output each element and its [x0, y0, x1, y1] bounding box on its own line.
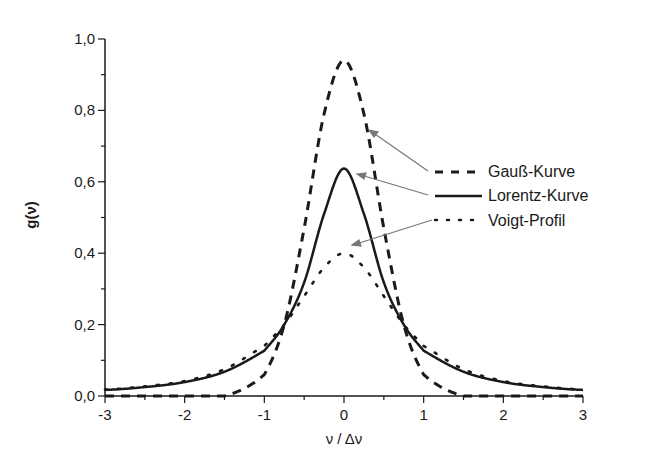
y-axis-ticks: 0,00,20,40,60,81,0: [74, 30, 105, 404]
legend-label: Lorentz-Kurve: [488, 187, 589, 204]
x-axis-title: ν / Δν: [326, 430, 363, 447]
arrow-icon: [357, 173, 428, 195]
y-tick-label: 0,6: [74, 173, 95, 190]
x-tick-label: 3: [579, 406, 587, 423]
x-tick-label: 1: [419, 406, 427, 423]
x-tick-label: -3: [98, 406, 111, 423]
legend-label: Voigt-Profil: [488, 212, 565, 229]
x-tick-label: -2: [178, 406, 191, 423]
legend-item-voigt: Voigt-Profil: [435, 212, 565, 229]
y-tick-label: 0,8: [74, 101, 95, 118]
x-axis-ticks: -3-2-10123: [98, 396, 587, 423]
y-tick-label: 1,0: [74, 30, 95, 47]
y-axis-title: g(ν): [22, 201, 39, 229]
y-tick-label: 0,0: [74, 387, 95, 404]
arrow-icon: [369, 130, 428, 171]
arrow-icon: [352, 220, 432, 246]
legend-label: Gauß-Kurve: [488, 163, 575, 180]
legend-item-lorentz: Lorentz-Kurve: [435, 187, 589, 204]
x-tick-label: -1: [258, 406, 271, 423]
y-tick-label: 0,2: [74, 316, 95, 333]
legend: Gauß-Kurve Lorentz-Kurve Voigt-Profil: [435, 163, 589, 229]
x-tick-label: 2: [499, 406, 507, 423]
line-chart: -3-2-10123 0,00,20,40,60,81,0 ν / Δν g(ν…: [0, 0, 650, 474]
y-tick-label: 0,4: [74, 244, 95, 261]
voigt-curve: [105, 253, 583, 389]
x-tick-label: 0: [340, 406, 348, 423]
legend-item-gauss: Gauß-Kurve: [435, 163, 575, 180]
annotation-arrows: [352, 130, 432, 246]
